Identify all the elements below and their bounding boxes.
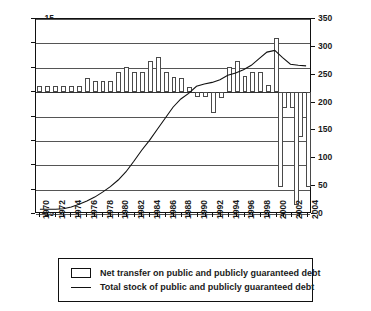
x-axis-tickmark: [157, 213, 158, 217]
x-axis-tickmark: [134, 213, 135, 217]
x-axis-tickmark: [126, 213, 127, 217]
x-axis-tickmark: [252, 213, 253, 217]
right-axis-tick-label: 200: [318, 98, 332, 107]
x-axis-tickmark: [212, 213, 213, 217]
total-stock-line: [40, 50, 306, 209]
x-axis-tickmark: [47, 213, 48, 217]
x-axis-tickmark: [189, 213, 190, 217]
plot-area: [35, 18, 311, 213]
x-axis-tickmark: [291, 213, 292, 217]
bar-swatch-icon: [71, 268, 91, 278]
right-axis-tickmark: [311, 102, 315, 103]
right-axis-tick-label: 250: [318, 70, 332, 79]
x-axis-tickmark: [70, 213, 71, 217]
x-axis-tickmark: [63, 213, 64, 217]
right-axis-tick-label: 100: [318, 153, 332, 162]
chart-root: 151050-5-10-15-20-25 3503002502001501005…: [0, 0, 371, 311]
x-axis-tickmark: [149, 213, 150, 217]
x-axis-tickmark: [307, 213, 308, 217]
right-axis-tickmark: [311, 18, 315, 19]
line-swatch-icon: [71, 287, 91, 288]
x-axis-tickmark: [299, 213, 300, 217]
right-axis-tick-label: 50: [318, 181, 327, 190]
right-axis-tickmark: [311, 185, 315, 186]
x-axis-tickmark: [55, 213, 56, 217]
x-axis-tickmark: [283, 213, 284, 217]
x-axis-tickmark: [110, 213, 111, 217]
x-axis-tickmark: [39, 213, 40, 217]
legend-item-net-transfer: Net transfer on public and publicly guar…: [71, 268, 312, 278]
right-axis-tickmark: [311, 157, 315, 158]
right-axis-tickmark: [311, 129, 315, 130]
legend-label-net-transfer: Net transfer on public and publicly guar…: [100, 269, 321, 278]
x-axis-tickmark: [205, 213, 206, 217]
right-axis-tick-label: 350: [318, 14, 332, 23]
x-axis-tickmark: [86, 213, 87, 217]
x-axis-tickmark: [173, 213, 174, 217]
x-axis-tickmark: [268, 213, 269, 217]
x-axis-tickmark: [141, 213, 142, 217]
x-axis-tickmark: [260, 213, 261, 217]
left-axis-tickmark: [31, 213, 35, 214]
x-axis-tickmark: [78, 213, 79, 217]
x-axis-tick-label: 2004: [311, 200, 320, 219]
x-axis-tickmark: [244, 213, 245, 217]
x-axis-tickmark: [220, 213, 221, 217]
x-axis-tickmark: [228, 213, 229, 217]
x-axis-tickmark: [118, 213, 119, 217]
x-axis-tickmark: [102, 213, 103, 217]
legend-label-total-stock: Total stock of public and publicly guara…: [100, 283, 314, 292]
right-axis-tick-label: 150: [318, 125, 332, 134]
x-axis-tickmark: [181, 213, 182, 217]
x-axis-tickmark: [276, 213, 277, 217]
x-axis-tickmark: [197, 213, 198, 217]
line-series: [36, 19, 310, 212]
right-axis-tickmark: [311, 74, 315, 75]
right-axis-tick-label: 300: [318, 42, 332, 51]
x-axis-tickmark: [165, 213, 166, 217]
chart-legend: Net transfer on public and publicly guar…: [58, 258, 313, 302]
right-axis-tickmark: [311, 46, 315, 47]
x-axis-tickmark: [94, 213, 95, 217]
legend-item-total-stock: Total stock of public and publicly guara…: [71, 283, 312, 292]
x-axis-tickmark: [236, 213, 237, 217]
